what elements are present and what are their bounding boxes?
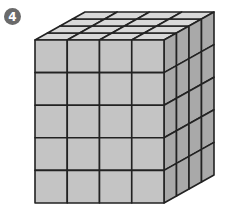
cube-prism-figure bbox=[0, 0, 231, 216]
right-face bbox=[164, 12, 214, 203]
front-face bbox=[35, 40, 164, 203]
